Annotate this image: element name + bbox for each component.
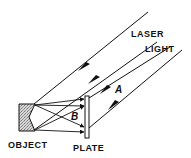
label-light: LIGHT [145, 44, 175, 54]
photographic-plate [85, 96, 89, 138]
arrow-icon [88, 75, 100, 84]
object-shape [19, 104, 35, 131]
label-plate: PLATE [73, 143, 104, 153]
arrow-icon [108, 100, 119, 110]
beam-arrowheads [78, 62, 119, 110]
beam-line-1 [34, 12, 148, 104]
label-laser: LASER [131, 29, 164, 39]
label-object: OBJECT [8, 140, 48, 150]
beam-line-3 [89, 47, 170, 98]
label-beam-b: B [71, 111, 78, 122]
hologram-diagram: LASER LIGHT A B OBJECT PLATE [0, 0, 191, 158]
label-beam-a: A [114, 84, 122, 95]
